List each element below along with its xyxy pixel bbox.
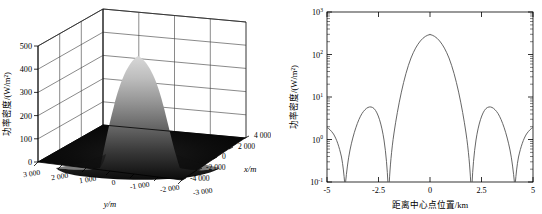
x-tick-label-m2p5: -2.5 [372, 186, 385, 195]
surface-plot-panel: 0 100 200 300 400 500 功率密度/(W/m²) 3 000 … [0, 0, 271, 214]
x-tick-label-m5: -5 [324, 186, 331, 195]
y-tick-label-1e3: 103 [312, 7, 323, 18]
semilog-plot-panel: 10-1 100 101 102 103 功率密度/(W/m²) -5 -2.5… [271, 0, 542, 214]
y-tick-label-1e0: 100 [312, 134, 323, 145]
x-tick-label-2000: 2 000 [238, 142, 255, 151]
z-axis-title: 功率密度/(W/m²) [1, 72, 12, 136]
x-tick-label-2p5: 2.5 [476, 186, 486, 195]
semilog-x-axis-title: 距离中心点位置/km [392, 199, 469, 210]
surface-plot-svg: 0 100 200 300 400 500 功率密度/(W/m²) 3 000 … [0, 0, 271, 214]
z-tick-label-200: 200 [20, 112, 32, 121]
z-tick-label-300: 300 [20, 88, 32, 97]
y-axis-tick-labels: 10-1 100 101 102 103 [310, 7, 323, 188]
z-tick-label-0: 0 [28, 158, 32, 167]
x-tick-label-4000: 4 000 [254, 131, 271, 140]
x-tick-label-5: 5 [531, 186, 535, 195]
x-tick-label-m2000: -2 000 [206, 163, 226, 172]
y-tick-label-0: 0 [111, 178, 116, 187]
y-tick-label-1e1: 101 [312, 92, 323, 103]
y-tick-label-m2000: -2 000 [159, 183, 180, 195]
semilog-y-axis-title: 功率密度/(W/m²) [288, 65, 299, 129]
y-axis-title: y/m [103, 199, 116, 209]
y-tick-label-m3000: -3 000 [192, 186, 213, 198]
y-tick-label-1e-1: 10-1 [310, 177, 323, 188]
z-tick-label-500: 500 [20, 42, 32, 51]
semilog-plot-svg: 10-1 100 101 102 103 功率密度/(W/m²) -5 -2.5… [271, 0, 542, 214]
x-tick-label-m4000: -4 000 [190, 174, 210, 183]
x-tick-label-0: 0 [222, 152, 226, 161]
z-axis-ticks: 0 100 200 300 400 500 [20, 42, 38, 167]
y-tick-label-m1000: -1 000 [129, 180, 150, 192]
plot-frame [327, 12, 533, 182]
x-axis-tick-labels: -5 -2.5 0 2.5 5 [324, 186, 535, 195]
y-tick-label-1e2: 102 [312, 49, 323, 60]
y-tick-label-2000: 2 000 [51, 171, 69, 182]
x-tick-label-0: 0 [428, 186, 432, 195]
z-tick-label-100: 100 [20, 135, 32, 144]
z-tick-label-400: 400 [20, 65, 32, 74]
y-tick-label-3000: 3 000 [23, 168, 41, 179]
x-axis-title: x/m [243, 164, 256, 174]
y-tick-label-1000: 1 000 [79, 174, 97, 185]
figure-container: 0 100 200 300 400 500 功率密度/(W/m²) 3 000 … [0, 0, 542, 214]
